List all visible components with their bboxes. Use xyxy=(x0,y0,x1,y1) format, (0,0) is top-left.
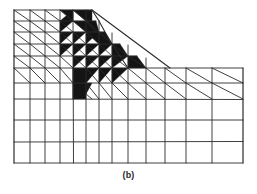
figure-container: (b) xyxy=(0,0,257,194)
finite-element-mesh-diagram xyxy=(0,0,257,194)
figure-caption: (b) xyxy=(0,170,257,181)
mesh-grid-lines xyxy=(14,10,243,163)
